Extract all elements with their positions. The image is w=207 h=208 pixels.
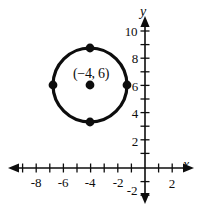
x-tick-label-2: 2 (169, 177, 175, 190)
x-tick-label-neg4: -4 (85, 176, 95, 189)
circle-center-annotation: (−4, 6) (73, 67, 109, 81)
y-tick-label-4: 4 (132, 107, 138, 120)
y-tick-label-6: 6 (132, 80, 138, 93)
y-tick-label-8: 8 (132, 52, 138, 65)
y-tick-label-neg2: -2 (127, 184, 137, 197)
x-tick-label-neg8: -8 (31, 176, 41, 189)
point-right (123, 81, 132, 90)
x-tick-label-neg2: -2 (113, 176, 123, 189)
plotted-points (49, 44, 132, 127)
y-tick-label-2: 2 (132, 135, 138, 148)
x-axis-left-arrowhead (8, 163, 19, 172)
x-tick-label-neg6: -6 (58, 176, 68, 189)
y-axis-name: y (140, 5, 146, 19)
point-center (86, 81, 95, 90)
graph-figure: 10 8 6 4 2 -2 -8 -6 -4 -2 2 x y (−4, 6) (0, 0, 207, 208)
y-tick-label-10: 10 (125, 25, 138, 38)
x-axis (8, 163, 194, 172)
y-axis (140, 16, 149, 204)
point-left (49, 81, 58, 90)
point-bottom (86, 118, 95, 127)
x-axis-name: x (183, 158, 189, 172)
point-top (86, 44, 95, 53)
